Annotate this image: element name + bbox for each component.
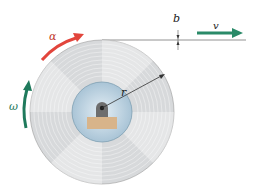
velocity-label: v [213, 20, 219, 31]
omega-label: ω [9, 101, 18, 112]
thickness-label: b [173, 13, 180, 24]
velocity-arrow-icon [197, 28, 243, 38]
alpha-label: α [49, 31, 56, 42]
radius-label: r [121, 87, 126, 98]
support-base [87, 117, 117, 129]
thickness-arrow-bottom [177, 41, 180, 45]
diagram-canvas [0, 0, 258, 189]
thickness-arrow-top [177, 35, 180, 39]
